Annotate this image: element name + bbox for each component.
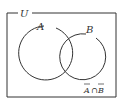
universe-rectangle (7, 13, 116, 97)
label-a-bar: A (83, 86, 90, 95)
label-b-bar: B (97, 86, 104, 95)
set-b-circle (60, 34, 106, 80)
set-b-label: B (85, 24, 93, 35)
universe-label: U (20, 8, 29, 19)
set-a-label: A (36, 21, 44, 32)
complement-intersection-label: A ∩ B (83, 84, 104, 95)
intersection-symbol: ∩ (91, 86, 98, 95)
venn-diagram: U A B A ∩ B (0, 0, 123, 101)
